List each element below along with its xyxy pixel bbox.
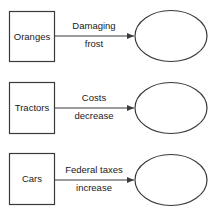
source-label: Cars (22, 173, 42, 184)
diagram-row-cars: Cars Federal taxes increase (10, 154, 208, 206)
target-oval (135, 83, 207, 134)
target-oval (135, 155, 207, 206)
arrow-label-line1: Federal taxes (65, 164, 123, 175)
target-oval (135, 11, 207, 62)
source-label: Oranges (14, 31, 51, 42)
arrow-label-line1: Costs (82, 92, 107, 103)
diagram-row-tractors: Tractors Costs decrease (10, 83, 208, 134)
arrow-label-line2: frost (85, 38, 104, 49)
arrow-label-line1: Damaging (72, 20, 115, 31)
arrow-label-line2: increase (76, 182, 112, 193)
diagram-canvas: Oranges Damaging frost Tractors Costs de… (0, 0, 219, 213)
diagram-row-oranges: Oranges Damaging frost (10, 11, 208, 62)
arrow-label-line2: decrease (74, 110, 113, 121)
source-label: Tractors (15, 102, 50, 113)
